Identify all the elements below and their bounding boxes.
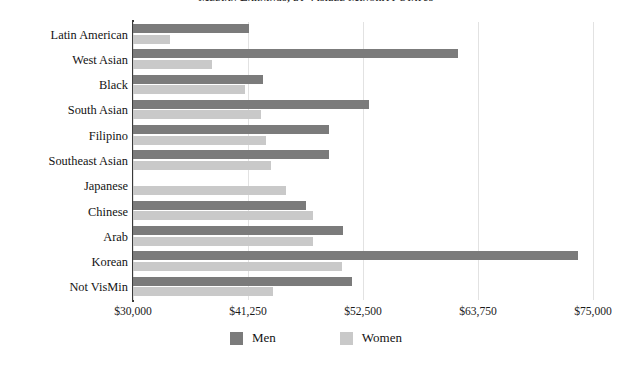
category-label: Black [2, 79, 128, 91]
gridline-4 [593, 22, 594, 300]
x-tick-label: $75,000 [574, 305, 612, 318]
bar-chart: Median Earnings, by Visible Minority Sta… [0, 0, 632, 372]
chart-legend: MenWomen [0, 330, 632, 346]
bar-group [133, 47, 593, 72]
bar-men [133, 100, 369, 109]
bar-men [133, 75, 263, 84]
bar-group [133, 174, 593, 199]
category-label: Not VisMin [2, 281, 128, 293]
bar-group [133, 249, 593, 274]
category-label: Filipino [2, 130, 128, 142]
legend-swatch-icon [230, 332, 243, 345]
bar-men [133, 277, 352, 286]
category-label: Latin American [2, 29, 128, 41]
legend-swatch-icon [340, 332, 353, 345]
bar-women [133, 85, 245, 94]
bar-group [133, 98, 593, 123]
bar-women [133, 60, 212, 69]
bar-women [133, 110, 261, 119]
bar-men [133, 49, 458, 58]
bar-group [133, 224, 593, 249]
category-label: Chinese [2, 206, 128, 218]
bar-women [133, 237, 313, 246]
bar-group [133, 22, 593, 47]
bar-women [133, 35, 170, 44]
category-label: Korean [2, 256, 128, 268]
x-tick-label: $30,000 [114, 305, 152, 318]
bar-group [133, 275, 593, 300]
bar-men [133, 251, 578, 260]
bar-men [133, 125, 329, 134]
legend-label: Women [362, 330, 402, 346]
bar-women [133, 186, 286, 195]
bar-men [133, 201, 306, 210]
legend-label: Men [252, 330, 276, 346]
bar-women [133, 136, 266, 145]
x-tick-label: $52,500 [344, 305, 382, 318]
bar-group [133, 73, 593, 98]
plot-area [133, 22, 593, 300]
category-label: Arab [2, 231, 128, 243]
legend-item-men[interactable]: Men [230, 330, 276, 346]
bar-women [133, 287, 273, 296]
bar-women [133, 161, 271, 170]
bar-women [133, 211, 313, 220]
chart-title: Median Earnings, by Visible Minority Sta… [0, 0, 632, 3]
bar-men [133, 226, 343, 235]
bar-men [133, 24, 249, 33]
bar-group [133, 148, 593, 173]
category-label: West Asian [2, 54, 128, 66]
x-tick-label: $41,250 [229, 305, 267, 318]
y-axis-category-labels: Latin AmericanWest AsianBlackSouth Asian… [0, 22, 128, 300]
bar-men [133, 150, 329, 159]
legend-item-women[interactable]: Women [340, 330, 402, 346]
category-label: Southeast Asian [2, 155, 128, 167]
category-label: Japanese [2, 180, 128, 192]
bar-group [133, 199, 593, 224]
bar-women [133, 262, 342, 271]
bar-group [133, 123, 593, 148]
category-label: South Asian [2, 104, 128, 116]
x-tick-label: $63,750 [459, 305, 497, 318]
